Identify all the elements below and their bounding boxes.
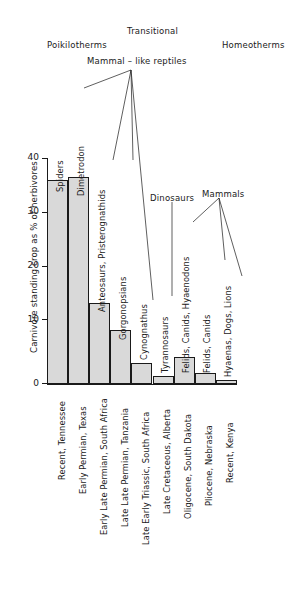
- series-label-spiders: Spiders: [55, 160, 65, 192]
- x-tick-label-pliocene-nebraska: Pliocene, Nebraska: [204, 425, 214, 506]
- bar-early-permian-texas[interactable]: [68, 177, 89, 384]
- bar-early-late-permian-south-africa[interactable]: [89, 303, 110, 384]
- leader-anteosaurs-apex: [113, 70, 131, 160]
- series-label-tyrannosaurs: Tyrannosaurs: [160, 317, 170, 373]
- series-label-hyaenas-dogs-lions: Hyaenas, Dogs, Lions: [223, 286, 233, 377]
- x-tick-label-oligocene-south-dakota: Oligocene, South Dakota: [183, 414, 193, 519]
- bar-late-cretaceous-alberta[interactable]: [153, 376, 174, 384]
- leader-dimetrodon-apex: [84, 70, 131, 88]
- y-tick-label-0: 0: [17, 378, 39, 388]
- x-tick-label-late-late-permian-tanzania: Late Late Permian, Tanzania: [120, 408, 130, 527]
- y-axis-title: Carnivore standing crop as % of herbivor…: [29, 152, 39, 362]
- x-tick-label-recent-kenya: Recent, Kenya: [225, 422, 235, 483]
- series-label-anteosaurs-pristerognathids: Anteosaurs, Pristerognathids: [97, 190, 107, 312]
- series-label-felids-canids: Felids, Canids: [202, 315, 212, 373]
- series-label-dimetrodon: Dimetrodon: [76, 146, 86, 196]
- series-label-felids-canids-hyaenodons: Felids, Canids, Hyaenodons: [181, 257, 191, 373]
- bar-late-early-triassic-south-africa[interactable]: [131, 363, 152, 385]
- bar-recent-kenya[interactable]: [216, 380, 237, 384]
- x-tick-label-early-permian-texas: Early Permian, Texas: [78, 406, 88, 494]
- x-tick-label-late-cretaceous-alberta: Late Cretaceous, Alberta: [162, 409, 172, 514]
- x-tick-label-recent-tennessee: Recent, Tennessee: [57, 401, 67, 480]
- bar-pliocene-nebraska[interactable]: [195, 373, 216, 384]
- series-label-cynognathus: Cynognathus: [139, 304, 149, 360]
- figure-canvas: Poikilotherms Transitional Homeotherms M…: [0, 0, 295, 605]
- x-tick-label-late-early-triassic-south-africa: Late Early Triassic, South Africa: [141, 412, 151, 545]
- bar-recent-tennessee[interactable]: [47, 180, 68, 385]
- x-tick-label-early-late-permian-south-africa: Early Late Permian, South Africa: [99, 398, 109, 535]
- series-label-gorgonopsians: Gorgonopsians: [118, 277, 128, 340]
